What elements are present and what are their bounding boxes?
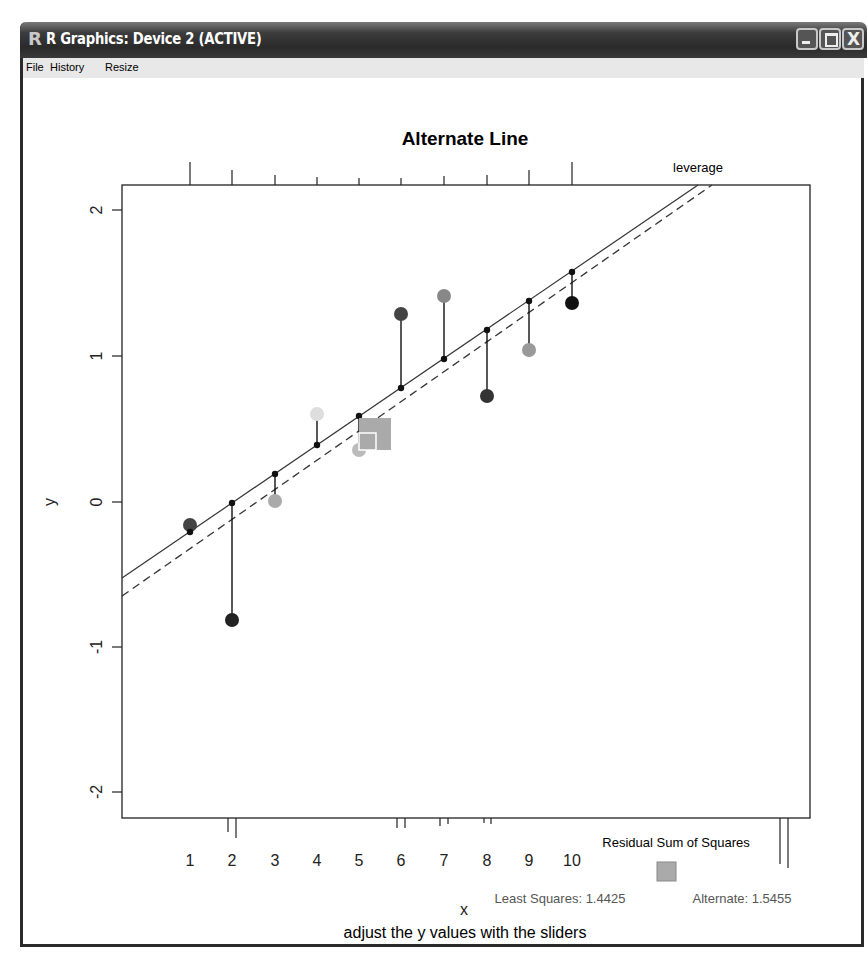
observed-points[interactable]: [183, 289, 579, 627]
x-tick-label: 6: [397, 852, 406, 869]
alternate-line: [122, 185, 698, 578]
x-tick-label: 10: [563, 852, 581, 869]
x-tick-label: 1: [186, 852, 195, 869]
plot-box: [122, 185, 810, 818]
x-axis-label: x: [460, 901, 468, 918]
rss-label: Residual Sum of Squares: [602, 835, 750, 850]
plot-canvas: Alternate Line leverage 2 1 0 -1 -2 y: [0, 0, 868, 962]
y-axis-label: y: [41, 498, 58, 506]
x-tick-label: 3: [271, 852, 280, 869]
rss-square-indicator: [657, 862, 676, 881]
x-tick-label: 2: [228, 852, 237, 869]
x-tick-label: 9: [525, 852, 534, 869]
rss-alternate: Alternate: 1.5455: [692, 891, 791, 906]
rss-least-squares: Least Squares: 1.4425: [495, 891, 626, 906]
x-tick-label: 5: [355, 852, 364, 869]
leverage-label: leverage: [673, 160, 723, 175]
plot-title: Alternate Line: [402, 128, 529, 149]
leverage-ticks: [190, 162, 572, 185]
residual-square-icon: [359, 418, 391, 450]
y-tick-label: 0: [88, 497, 105, 506]
y-tick-label: -2: [88, 785, 105, 799]
least-squares-line: [122, 185, 712, 596]
y-axis-ticks: [112, 210, 122, 792]
plot-subtitle: adjust the y values with the sliders: [344, 924, 587, 941]
y-tick-label: 2: [88, 205, 105, 214]
y-tick-label: -1: [88, 640, 105, 654]
x-tick-label: 8: [483, 852, 492, 869]
y-tick-label: 1: [88, 351, 105, 360]
x-tick-label: 7: [440, 852, 449, 869]
x-tick-label: 4: [313, 852, 322, 869]
